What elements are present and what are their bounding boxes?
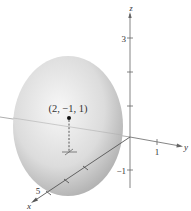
z-tick-3: 3 (122, 34, 127, 44)
ellipsoid-figure: (2, −1, 1) z 3 −1 1 y 5 x (0, 0, 191, 211)
x-axis-label: x (26, 201, 31, 211)
y-tick-1: 1 (155, 147, 160, 157)
z-axis (127, 12, 133, 188)
y-axis (130, 137, 183, 147)
z-axis-label: z (128, 4, 133, 13)
point-label: (2, −1, 1) (48, 103, 88, 115)
x-tick-5: 5 (36, 186, 41, 196)
center-point (67, 116, 71, 120)
ellipsoid-surface (13, 56, 123, 196)
y-axis-label: y (183, 142, 188, 152)
z-tick-neg1: −1 (116, 166, 126, 176)
